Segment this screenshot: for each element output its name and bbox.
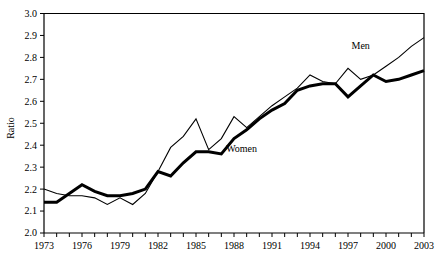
x-tick-label: 1976 xyxy=(72,240,92,251)
x-tick-label: 1982 xyxy=(148,240,168,251)
chart-figure: 2.02.12.22.32.42.52.62.72.82.93.0 197319… xyxy=(0,0,438,262)
cropped-title-artifact xyxy=(52,0,382,7)
y-axis: 2.02.12.22.32.42.52.62.72.82.93.0 xyxy=(25,8,45,239)
y-tick-label: 2.7 xyxy=(25,74,38,85)
y-tick-label: 2.6 xyxy=(25,96,38,107)
x-tick-label: 2000 xyxy=(376,240,396,251)
x-tick-label: 1973 xyxy=(34,240,54,251)
series-line-women xyxy=(44,71,424,203)
series-label-men: Men xyxy=(351,40,369,51)
y-tick-label: 2.9 xyxy=(25,30,38,41)
x-axis: 1973197619791982198519881991199419972000… xyxy=(34,233,434,251)
line-chart-plot: 2.02.12.22.32.42.52.62.72.82.93.0 197319… xyxy=(0,0,438,262)
x-tick-label: 1985 xyxy=(186,240,206,251)
y-tick-label: 2.4 xyxy=(25,140,38,151)
y-tick-label: 2.1 xyxy=(25,205,38,216)
y-axis-title: Ratio xyxy=(5,117,16,139)
y-tick-label: 2.2 xyxy=(25,184,38,195)
y-tick-label: 2.8 xyxy=(25,52,38,63)
y-tick-label: 2.5 xyxy=(25,118,38,129)
x-tick-label: 1991 xyxy=(262,240,282,251)
x-tick-label: 2003 xyxy=(414,240,434,251)
x-tick-label: 1988 xyxy=(224,240,244,251)
y-tick-label: 3.0 xyxy=(25,8,38,19)
x-tick-label: 1979 xyxy=(110,240,130,251)
x-tick-label: 1994 xyxy=(300,240,320,251)
y-tick-label: 2.0 xyxy=(25,227,38,238)
data-series-group xyxy=(44,38,424,205)
y-tick-label: 2.3 xyxy=(25,162,38,173)
series-line-men xyxy=(44,38,424,205)
series-label-women: Women xyxy=(226,143,257,154)
x-tick-label: 1997 xyxy=(338,240,358,251)
